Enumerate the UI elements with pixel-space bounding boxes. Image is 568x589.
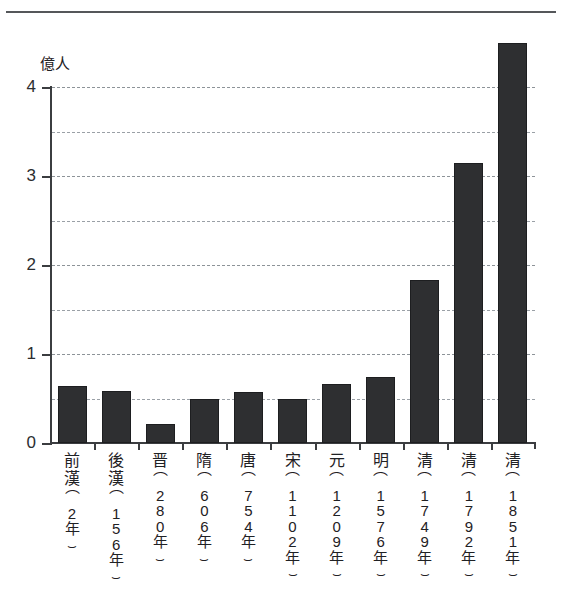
bar-9 [454, 163, 483, 443]
x-label-era: 清 [452, 452, 486, 470]
bar-7 [366, 377, 395, 443]
x-label-era: 前漢 [55, 452, 89, 488]
x-tick-8 [403, 443, 405, 450]
x-label-year: ⌒280年⌣ [143, 472, 177, 565]
x-label-year: ⌒1851年⌣ [496, 472, 530, 581]
x-label-year: ⌒1576年⌣ [364, 472, 398, 581]
x-label-era: 隋 [187, 452, 221, 470]
bar-10 [498, 43, 527, 444]
x-label-year: ⌒1749年⌣ [408, 472, 442, 581]
bar-5 [278, 399, 307, 444]
x-label-year: ⌒606年⌣ [187, 472, 221, 565]
x-axis-label-7: 明⌒1576年⌣ [364, 452, 398, 581]
x-label-year: ⌒2年⌣ [55, 490, 89, 552]
bar-8 [410, 280, 439, 443]
bar-4 [234, 392, 263, 443]
population-bar-chart: 億人 01234 前漢⌒2年⌣後漢⌒156年⌣晋⌒280年⌣隋⌒606年⌣唐⌒7… [0, 0, 568, 589]
x-tick-7 [359, 443, 361, 450]
y-tick-0 [42, 443, 52, 445]
x-label-year: ⌒754年⌣ [231, 472, 265, 565]
bar-6 [322, 384, 351, 443]
x-axis-label-6: 元⌒1209年⌣ [320, 452, 354, 581]
x-label-year: ⌒1792年⌣ [452, 472, 486, 581]
x-axis-label-10: 清⌒1851年⌣ [496, 452, 530, 581]
x-label-era: 清 [496, 452, 530, 470]
x-tick-5 [270, 443, 272, 450]
bar-3 [190, 399, 219, 443]
x-axis-label-2: 晋⌒280年⌣ [143, 452, 177, 565]
x-label-year: ⌒1102年⌣ [276, 472, 310, 581]
x-tick-4 [226, 443, 228, 450]
x-tick-10 [491, 443, 493, 450]
x-axis-label-9: 清⌒1792年⌣ [452, 452, 486, 581]
x-tick-1 [94, 443, 96, 450]
x-label-era: 唐 [231, 452, 265, 470]
x-axis-label-8: 清⌒1749年⌣ [408, 452, 442, 581]
y-axis-label-3: 3 [10, 167, 36, 184]
bar-2 [146, 424, 175, 443]
x-axis-label-1: 後漢⌒156年⌣ [99, 452, 133, 583]
x-axis-label-5: 宋⌒1102年⌣ [276, 452, 310, 581]
x-label-year: ⌒156年⌣ [99, 490, 133, 583]
x-label-era: 後漢 [99, 452, 133, 488]
x-axis-label-3: 隋⌒606年⌣ [187, 452, 221, 565]
x-label-era: 晋 [143, 452, 177, 470]
x-tick-9 [447, 443, 449, 450]
x-label-era: 宋 [276, 452, 310, 470]
bar-1 [102, 391, 131, 443]
bar-0 [58, 386, 87, 443]
x-label-era: 清 [408, 452, 442, 470]
y-axis-label-4: 4 [10, 78, 36, 95]
y-axis-label-0: 0 [10, 434, 36, 451]
y-axis-label-1: 1 [10, 345, 36, 362]
x-axis-label-0: 前漢⌒2年⌣ [55, 452, 89, 552]
x-axis-label-4: 唐⌒754年⌣ [231, 452, 265, 565]
x-tick-3 [182, 443, 184, 450]
x-label-year: ⌒1209年⌣ [320, 472, 354, 581]
y-axis-unit-label: 億人 [40, 56, 70, 72]
x-tick-6 [315, 443, 317, 450]
y-axis-label-2: 2 [10, 256, 36, 273]
x-axis-end-tick [534, 442, 536, 449]
x-tick-2 [138, 443, 140, 450]
x-label-era: 明 [364, 452, 398, 470]
plot-area [50, 85, 535, 443]
x-label-era: 元 [320, 452, 354, 470]
